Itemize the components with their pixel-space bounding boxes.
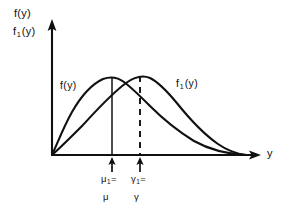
mu-tick-subscript: 1 bbox=[106, 178, 111, 185]
y-axis-label-f1: f1(y) bbox=[13, 26, 36, 37]
mu-tick-label-top: μ1= bbox=[101, 174, 117, 184]
x-axis-label: y bbox=[267, 148, 273, 159]
curve-label-f1: f1(y) bbox=[176, 78, 198, 89]
mu-arrow-marker bbox=[108, 157, 115, 172]
gamma-arrow-marker bbox=[136, 157, 143, 172]
mu-tick-label-bottom: μ bbox=[103, 192, 108, 202]
y-axis bbox=[48, 19, 57, 155]
gamma-tick-label-top: γ1= bbox=[131, 174, 146, 184]
y-axis-label-f1-subscript: 1 bbox=[16, 30, 21, 39]
gamma-tick-label-bottom: γ bbox=[134, 192, 139, 202]
gamma-tick-subscript: 1 bbox=[136, 178, 141, 185]
mu-tick-equals: = bbox=[111, 173, 117, 184]
figure-canvas: f(y) f1(y) y f(y) f1(y) μ1= μ γ1= γ bbox=[0, 0, 287, 209]
x-axis bbox=[52, 151, 261, 160]
gamma-tick-equals: = bbox=[140, 173, 146, 184]
y-axis-label-f: f(y) bbox=[14, 8, 31, 19]
y-axis-label-f1-tail: (y) bbox=[22, 25, 36, 37]
curve-f1 bbox=[52, 77, 246, 155]
curve-label-f1-tail: (y) bbox=[185, 77, 198, 89]
curve-label-f: f(y) bbox=[60, 80, 77, 91]
curve-label-f1-subscript: 1 bbox=[179, 83, 184, 91]
